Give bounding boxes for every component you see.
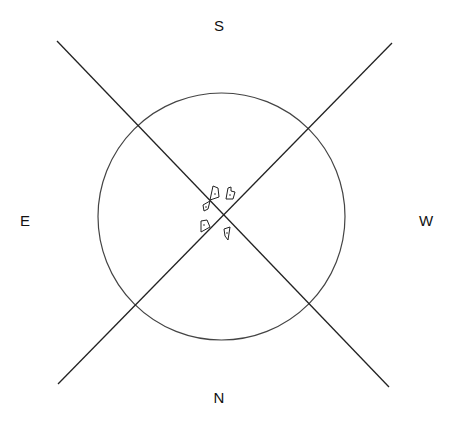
glyph-a-icon <box>210 186 219 200</box>
label-right-w: W <box>419 213 433 228</box>
glyph-e-icon <box>224 227 230 240</box>
compass-diagram: S N E W <box>0 0 452 424</box>
glyph-c-icon <box>203 201 210 211</box>
label-bottom-n: N <box>214 390 225 405</box>
label-top-s: S <box>214 18 224 33</box>
label-left-e: E <box>20 213 30 228</box>
diagram-canvas <box>0 0 452 424</box>
glyph-b-icon <box>226 187 235 199</box>
